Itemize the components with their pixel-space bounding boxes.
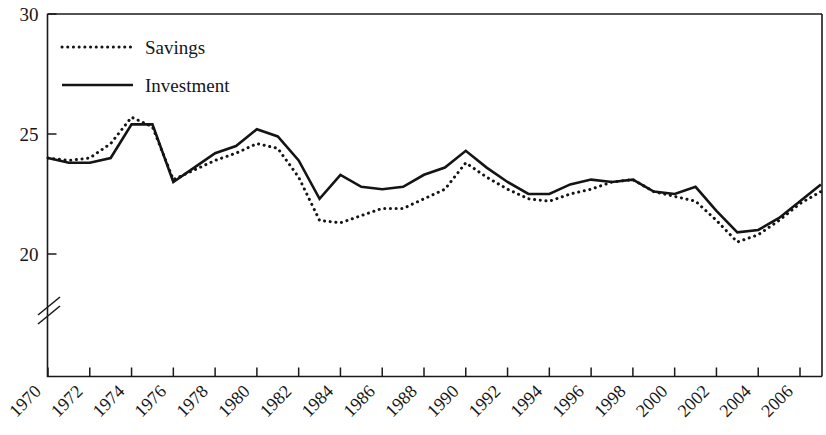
savings-investment-line-chart: 202530 197019721974197619781980198219841… <box>0 0 826 435</box>
legend-label-savings: Savings <box>145 37 205 58</box>
x-axis-ticks: 1970197219741976197819801982198419861988… <box>5 368 800 421</box>
x-tick-label: 1974 <box>89 381 129 421</box>
x-tick-label: 1990 <box>423 381 463 421</box>
x-tick-label: 1980 <box>214 381 254 421</box>
series-line-investment <box>48 124 821 232</box>
x-tick-label: 1986 <box>339 381 379 421</box>
x-tick-label: 1978 <box>172 381 212 421</box>
x-tick-label: 1994 <box>507 381 547 421</box>
y-tick-label: 25 <box>20 124 39 145</box>
x-tick-label: 1988 <box>381 381 421 421</box>
x-tick-label: 2000 <box>632 381 672 421</box>
x-tick-label: 1984 <box>298 381 338 421</box>
axes-group <box>48 14 823 377</box>
x-tick-label: 1998 <box>590 381 630 421</box>
x-tick-label: 1992 <box>465 381 505 421</box>
legend-label-investment: Investment <box>145 75 230 96</box>
chart-container: 202530 197019721974197619781980198219841… <box>0 0 826 435</box>
y-tick-label: 20 <box>20 244 39 265</box>
series-line-savings <box>48 117 821 242</box>
x-tick-label: 1996 <box>548 381 588 421</box>
chart-legend: Savings Investment <box>62 37 230 96</box>
y-tick-label: 30 <box>20 4 39 25</box>
x-tick-label: 1976 <box>131 381 171 421</box>
y-axis-break-icon <box>38 297 60 324</box>
axis-frame <box>48 14 823 377</box>
x-tick-label: 1972 <box>47 381 87 421</box>
x-tick-label: 2006 <box>757 381 797 421</box>
x-tick-label: 1970 <box>5 381 45 421</box>
x-tick-label: 2004 <box>715 381 755 421</box>
x-tick-label: 2002 <box>674 381 714 421</box>
y-axis-ticks: 202530 <box>20 4 57 265</box>
series-group <box>48 117 821 242</box>
x-tick-label: 1982 <box>256 381 296 421</box>
